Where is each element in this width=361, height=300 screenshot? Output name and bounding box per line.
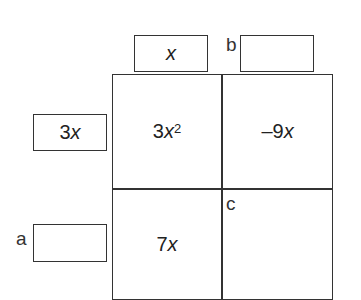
left-factor-1-var: x <box>71 121 81 144</box>
top-factor-box-1: x <box>134 35 208 72</box>
left-factor-box-2-blank[interactable] <box>33 224 107 262</box>
cell-r0-c1-coeff: –9 <box>261 120 283 143</box>
left-factor-box-1: 3x <box>33 114 107 151</box>
cell-r0-c1: –9x <box>223 75 332 188</box>
cell-r1-c1-blank[interactable] <box>223 190 332 298</box>
top-factor-2-label: b <box>226 34 237 56</box>
left-factor-1-coeff: 3 <box>59 121 70 144</box>
cell-r0-c0-var: x <box>164 120 174 143</box>
cell-r1-c0-var: x <box>168 233 178 256</box>
top-factor-box-2-blank[interactable] <box>240 35 314 72</box>
cell-r0-c0-exponent: 2 <box>174 121 181 136</box>
cell-r0-c0-coeff: 3 <box>153 120 164 143</box>
cell-r0-c0: 3x2 <box>113 75 221 188</box>
left-factor-2-label: a <box>16 228 27 250</box>
cell-r1-c0-coeff: 7 <box>156 233 167 256</box>
cell-r1-c1-label: c <box>226 193 236 215</box>
top-factor-1-var: x <box>166 42 176 65</box>
cell-r0-c1-var: x <box>284 120 294 143</box>
cell-r1-c0: 7x <box>113 190 221 298</box>
